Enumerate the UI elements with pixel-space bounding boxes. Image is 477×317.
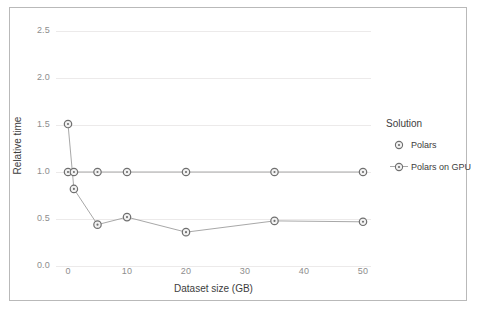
x-axis-label: Dataset size (GB) (56, 283, 371, 294)
legend: Solution Polars Pola (386, 118, 474, 181)
legend-title: Solution (386, 118, 474, 129)
data-point (359, 168, 366, 175)
circle-dot-icon (390, 138, 408, 152)
y-axis-label: Relative time (12, 106, 23, 186)
data-point (64, 120, 71, 127)
data-point (182, 168, 189, 175)
legend-item-polars-on-gpu[interactable]: Polars on GPU (390, 159, 474, 175)
data-point (123, 213, 130, 220)
circle-dot-line-icon (390, 160, 408, 174)
data-point (123, 168, 130, 175)
legend-item-label: Polars on GPU (411, 162, 471, 172)
data-point (271, 217, 278, 224)
data-point (182, 228, 189, 235)
data-point (94, 221, 101, 228)
chart-figure: 2.5 2.0 1.5 1.0 0.5 0.0 0 10 20 30 (0, 0, 477, 317)
data-point (359, 218, 366, 225)
data-point (271, 168, 278, 175)
legend-item-polars[interactable]: Polars (390, 137, 474, 153)
data-point (70, 168, 77, 175)
data-point (70, 185, 77, 192)
series-line-1 (68, 124, 363, 232)
data-point (94, 168, 101, 175)
plot-area: 2.5 2.0 1.5 1.0 0.5 0.0 0 10 20 30 (0, 0, 477, 317)
legend-item-label: Polars (411, 140, 437, 150)
